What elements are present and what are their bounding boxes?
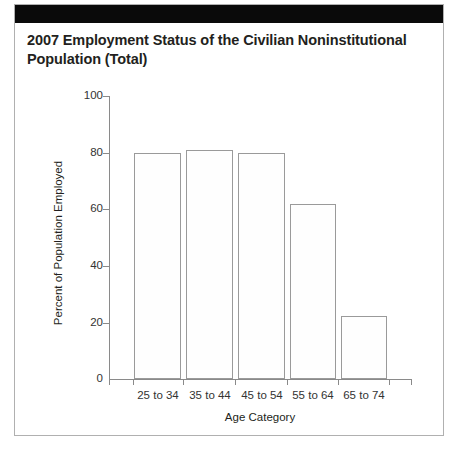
y-axis-title: Percent of Population Employed [52, 118, 64, 368]
x-tick-mark [183, 379, 184, 385]
x-tick-mark [287, 379, 288, 385]
y-axis-line [109, 96, 110, 380]
bar-55-to-64 [290, 204, 336, 379]
plot-area: 100 80 60 40 20 0 Percent of Population … [15, 5, 445, 437]
x-tick-label-25-to-34: 25 to 34 [128, 389, 188, 402]
x-axis-title: Age Category [109, 411, 411, 423]
x-axis-line [109, 379, 411, 380]
x-tick-mark [235, 379, 236, 385]
x-tick-label-65-to-74: 65 to 74 [334, 389, 394, 402]
y-tick-mark [103, 323, 109, 324]
bar-45-to-54 [238, 153, 285, 379]
x-tick-mark [109, 379, 110, 385]
x-tick-mark [389, 379, 390, 385]
bar-25-to-34 [134, 153, 181, 379]
y-tick-0: 0 [55, 379, 103, 380]
y-tick-label: 0 [67, 373, 103, 384]
y-tick-label: 100 [67, 90, 103, 101]
chart-panel: 2007 Employment Status of the Civilian N… [14, 4, 444, 436]
y-tick-mark [103, 209, 109, 210]
y-tick-label: 60 [67, 203, 103, 214]
x-tick-mark [338, 379, 339, 385]
y-tick-mark [103, 266, 109, 267]
bar-65-to-74 [341, 316, 387, 379]
y-tick-label: 40 [67, 260, 103, 271]
x-tick-mark [133, 379, 134, 385]
x-tick-label-35-to-44: 35 to 44 [180, 389, 240, 402]
x-tick-mark [411, 379, 412, 385]
y-tick-mark [103, 96, 109, 97]
y-tick-100: 100 [55, 96, 103, 97]
y-tick-label: 20 [67, 317, 103, 328]
y-tick-label: 80 [67, 147, 103, 158]
y-tick-mark [103, 153, 109, 154]
bar-35-to-44 [186, 150, 233, 379]
